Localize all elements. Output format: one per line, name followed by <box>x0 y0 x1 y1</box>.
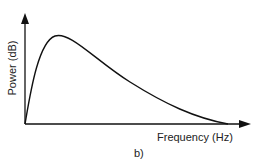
x-axis-arrow-icon <box>239 120 251 128</box>
spectrum-curve <box>25 35 228 124</box>
x-axis-label: Frequency (Hz) <box>157 131 233 143</box>
y-axis-label: Power (dB) <box>6 38 18 98</box>
y-axis-arrow-icon <box>21 13 29 24</box>
figure-caption: b) <box>134 147 144 159</box>
